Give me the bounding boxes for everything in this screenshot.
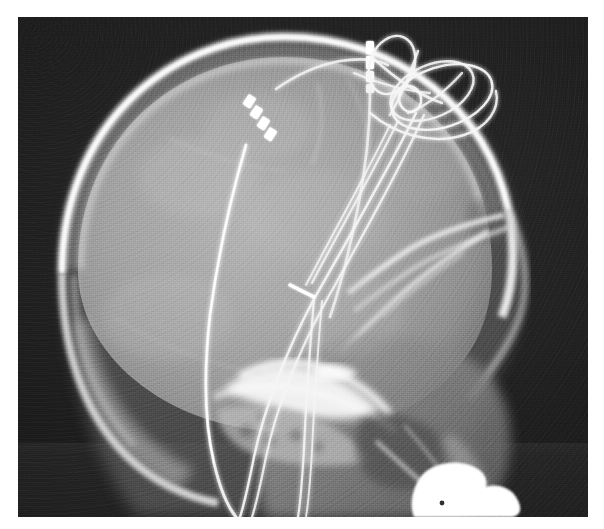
radiograph-viewport bbox=[0, 0, 604, 529]
film-grain-fine bbox=[18, 17, 588, 517]
radiograph-film bbox=[18, 17, 588, 517]
